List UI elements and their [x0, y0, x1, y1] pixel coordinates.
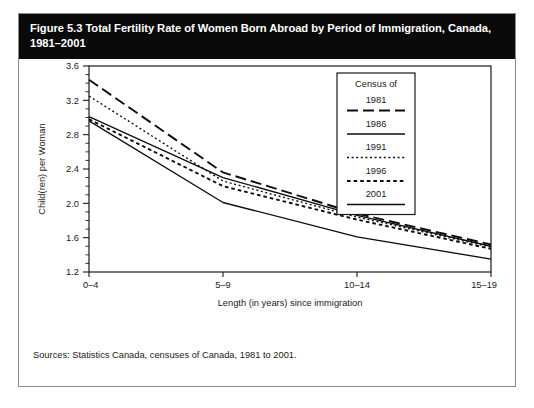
y-axis-tick-label: 1.2 — [66, 267, 79, 277]
figure-card: Figure 5.3 Total Fertility Rate of Women… — [18, 13, 516, 387]
legend-label-1991: 1991 — [366, 142, 387, 152]
x-axis-tick-label: 10–14 — [344, 280, 370, 290]
legend-label-1996: 1996 — [366, 165, 387, 175]
legend-label-2001: 2001 — [366, 189, 387, 199]
y-axis-tick-label: 2.4 — [66, 164, 79, 174]
legend-title: Census of — [355, 79, 397, 89]
x-axis-tick-label: 0–4 — [83, 280, 99, 290]
y-axis-title: Child(ren) per Woman — [37, 123, 47, 214]
source-note: Sources: Statistics Canada, censuses of … — [33, 350, 297, 360]
y-axis-tick-label: 3.6 — [66, 61, 79, 71]
chart-legend: Census of19811986199119962001 — [337, 73, 415, 215]
line-chart: 1.21.62.02.42.83.23.6Child(ren) per Woma… — [19, 59, 515, 317]
series-line-1996 — [89, 119, 491, 249]
legend-label-1986: 1986 — [366, 118, 387, 128]
legend-label-1981: 1981 — [366, 95, 387, 105]
figure-title-bar: Figure 5.3 Total Fertility Rate of Women… — [19, 14, 515, 59]
page-title: Figure 5.3 Total Fertility Rate of Women… — [30, 21, 504, 51]
chart-plot-area: 1.21.62.02.42.83.23.6Child(ren) per Woma… — [19, 59, 515, 317]
y-axis-tick-label: 1.6 — [66, 233, 79, 243]
y-axis-tick-label: 3.2 — [66, 96, 79, 106]
x-axis-tick-label: 5–9 — [215, 280, 231, 290]
plot-frame — [89, 66, 491, 272]
series-line-2001 — [89, 121, 491, 259]
y-axis-tick-label: 2.8 — [66, 130, 79, 140]
series-line-1991 — [89, 96, 491, 247]
series-line-1986 — [89, 116, 491, 246]
x-axis-tick-label: 15–19 — [471, 280, 497, 290]
x-axis-title: Length (in years) since immigration — [218, 298, 363, 308]
y-axis-tick-label: 2.0 — [66, 199, 79, 209]
